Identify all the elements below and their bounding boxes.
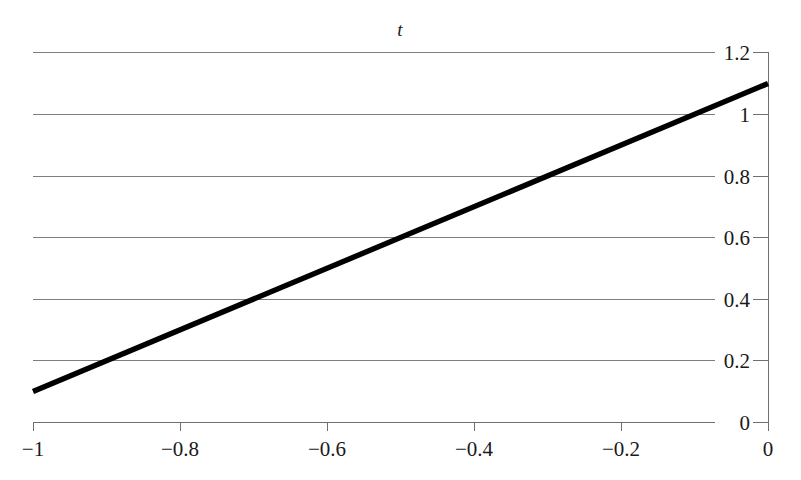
x-tick-label--1: −1 [22,437,44,461]
y-tick-label-0.8: 0.8 [724,165,750,189]
y-tick-label-1: 1 [740,103,751,127]
y-tick-label-0: 0 [740,411,751,435]
x-tick-label--0.4: −0.4 [455,437,494,461]
y-tick-label-0.2: 0.2 [724,349,750,373]
chart-title: t [397,19,403,40]
x-tick-label--0.2: −0.2 [602,437,640,461]
x-tick-label-0: 0 [763,437,774,461]
y-tick-label-1.2: 1.2 [724,41,750,65]
y-tick-label-0.4: 0.4 [724,288,751,312]
y-tick-label-0.6: 0.6 [724,226,750,250]
x-tick-label--0.6: −0.6 [308,437,346,461]
chart-canvas: t 1.2 1 0.8 0.6 0.4 0.2 0 −1 −0.8 −0.6 −… [0,0,801,480]
chart-figure: t 1.2 1 0.8 0.6 0.4 0.2 0 −1 −0.8 −0.6 −… [0,0,801,480]
x-tick-label--0.8: −0.8 [161,437,199,461]
